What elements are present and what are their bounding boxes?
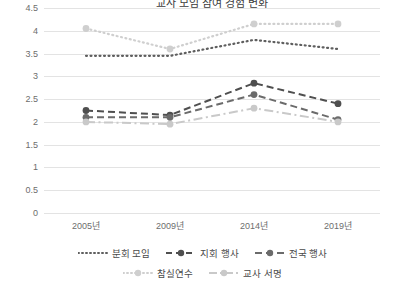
data-point xyxy=(335,118,342,125)
plot-area: 교사 모임 참여 경험 변화 0 0.5 1 1.5 2 2.5 3 3.5 4… xyxy=(44,8,380,213)
legend-label: 교사 서명 xyxy=(243,266,282,280)
legend-item-4: 교사 서명 xyxy=(209,266,282,280)
x-axis-tick: 2014년 xyxy=(240,219,268,232)
y-axis-tick: 3.5 xyxy=(25,49,38,59)
data-point xyxy=(167,121,174,128)
gridline xyxy=(44,213,380,214)
data-point xyxy=(335,100,342,107)
legend-swatch-icon xyxy=(123,268,153,278)
legend-row-1: 분회 모임 지회 행사 전국 행사 xyxy=(78,246,328,260)
data-point xyxy=(251,105,258,112)
y-axis-tick: 3 xyxy=(33,71,38,81)
legend-item-2: 전국 행사 xyxy=(255,246,328,260)
y-axis-tick: 2.5 xyxy=(25,94,38,104)
y-axis-tick: 4 xyxy=(33,26,38,36)
x-axis-tick: 2005년 xyxy=(72,219,100,232)
series-line xyxy=(86,83,338,115)
legend-label: 지회 행사 xyxy=(200,246,239,260)
data-point xyxy=(167,46,174,53)
chart-legend: 분회 모임 지회 행사 전국 행사 참실연수 교사 서명 xyxy=(0,246,405,280)
data-point xyxy=(251,21,258,28)
legend-item-0: 분회 모임 xyxy=(78,246,151,260)
y-axis-tick: 1 xyxy=(33,162,38,172)
legend-swatch-icon xyxy=(255,248,285,258)
y-axis-tick: 0 xyxy=(33,208,38,218)
legend-label: 분회 모임 xyxy=(112,246,151,260)
y-axis-tick: 1.5 xyxy=(25,140,38,150)
series-line xyxy=(86,40,338,56)
x-axis-tick: 2019년 xyxy=(324,219,352,232)
legend-item-3: 참실연수 xyxy=(123,266,193,280)
data-point xyxy=(167,114,174,121)
data-point xyxy=(251,80,258,87)
data-point xyxy=(83,107,90,114)
y-axis-tick: 0.5 xyxy=(25,185,38,195)
legend-label: 참실연수 xyxy=(157,266,193,280)
series-line xyxy=(86,108,338,124)
legend-row-2: 참실연수 교사 서명 xyxy=(123,266,282,280)
legend-swatch-icon xyxy=(78,248,108,258)
legend-item-1: 지회 행사 xyxy=(166,246,239,260)
data-point xyxy=(83,25,90,32)
series-layer xyxy=(44,8,380,213)
legend-swatch-icon xyxy=(209,268,239,278)
x-axis-tick: 2009년 xyxy=(156,219,184,232)
chart-container: 교사 모임 참여 경험 변화 0 0.5 1 1.5 2 2.5 3 3.5 4… xyxy=(0,0,405,290)
y-axis-tick: 4.5 xyxy=(25,3,38,13)
legend-label: 전국 행사 xyxy=(289,246,328,260)
legend-swatch-icon xyxy=(166,248,196,258)
y-axis-tick: 2 xyxy=(33,117,38,127)
data-point xyxy=(83,118,90,125)
data-point xyxy=(335,21,342,28)
data-point xyxy=(251,91,258,98)
